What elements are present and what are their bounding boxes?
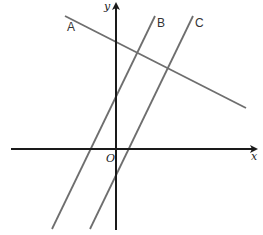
line-b	[52, 16, 155, 229]
coordinate-plane: A B C y x O	[0, 0, 263, 235]
x-axis-label: x	[251, 150, 258, 163]
y-axis-label: y	[103, 0, 111, 13]
origin-label: O	[106, 152, 115, 165]
line-b-label: B	[157, 16, 165, 30]
line-c-label: C	[195, 16, 204, 30]
line-a-label: A	[67, 20, 75, 34]
line-c	[90, 16, 193, 229]
